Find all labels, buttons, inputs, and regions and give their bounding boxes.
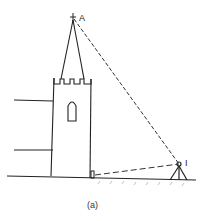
ground-hatch [98,181,184,186]
staff-icon [91,171,94,178]
sight-line-to-staff [95,164,179,175]
ground-line [7,176,196,180]
figure-caption: (a) [87,200,98,210]
tower-survey-diagram: A I (a) [0,0,208,221]
label-a: A [79,13,85,23]
sight-line-to-apex [74,19,179,164]
tower [51,20,91,178]
label-i: I [185,158,188,168]
wall-top-line [14,100,53,101]
